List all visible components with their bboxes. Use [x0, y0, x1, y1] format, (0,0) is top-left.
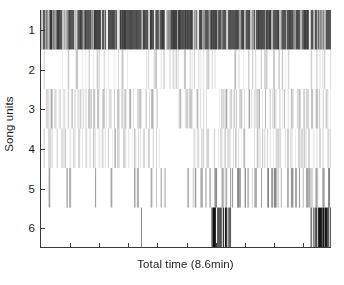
y-tick-mark-2 [41, 70, 45, 71]
y-axis-label: Song units [0, 0, 18, 248]
y-tick-label-2: 2 [29, 64, 35, 76]
x-tick-mark-8 [274, 243, 275, 247]
y-tick-label-6: 6 [29, 222, 35, 234]
y-axis-tick-labels: 123456 [18, 0, 38, 285]
x-tick-mark-1 [70, 243, 71, 247]
y-tick-label-5: 5 [29, 183, 35, 195]
x-tick-mark-9 [303, 243, 304, 247]
y-axis-label-text: Song units [3, 96, 15, 151]
x-tick-mark-7 [245, 243, 246, 247]
y-tick-label-4: 4 [29, 143, 35, 155]
x-tick-mark-6 [216, 243, 217, 247]
y-tick-mark-3 [41, 109, 45, 110]
y-tick-mark-6 [41, 228, 45, 229]
x-axis-label: Total time (8.6min) [40, 258, 331, 270]
figure-raster-plot: Song units 123456 Total time (8.6min) [0, 0, 344, 285]
x-tick-mark-2 [99, 243, 100, 247]
y-tick-label-1: 1 [29, 24, 35, 36]
x-tick-mark-3 [128, 243, 129, 247]
raster-canvas [41, 10, 331, 247]
y-tick-mark-5 [41, 189, 45, 190]
plot-area [40, 10, 331, 248]
x-tick-mark-5 [187, 243, 188, 247]
x-tick-mark-4 [157, 243, 158, 247]
y-tick-mark-1 [41, 30, 45, 31]
y-tick-label-3: 3 [29, 103, 35, 115]
y-tick-mark-4 [41, 149, 45, 150]
